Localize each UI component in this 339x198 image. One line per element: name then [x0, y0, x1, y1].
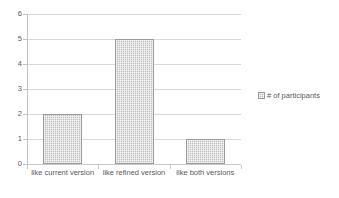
y-axis-tick-label: 6: [6, 10, 22, 18]
y-axis-tick-labels: 0123456: [0, 0, 22, 198]
y-axis-tick-mark: [23, 89, 27, 90]
x-axis-tick-mark: [241, 165, 242, 169]
bar-chart: 0123456 like current versionlike refined…: [0, 0, 339, 198]
y-axis-tick-label: 5: [6, 35, 22, 43]
plot-area: [27, 14, 241, 164]
gridline: [27, 14, 241, 15]
x-axis-category-labels: like current versionlike refined version…: [27, 168, 241, 198]
x-axis-line: [27, 164, 241, 165]
x-axis-category-label: like both versions: [170, 168, 241, 178]
y-axis-tick-mark: [23, 39, 27, 40]
bar: [186, 139, 225, 164]
y-axis-tick-mark: [23, 64, 27, 65]
bar: [43, 114, 82, 164]
bar: [115, 39, 154, 164]
x-axis-category-label: like current version: [27, 168, 98, 178]
y-axis-tick-label: 1: [6, 135, 22, 143]
y-axis-tick-label: 3: [6, 85, 22, 93]
y-axis-tick-mark: [23, 139, 27, 140]
y-axis-tick-mark: [23, 114, 27, 115]
y-axis-tick-mark: [23, 14, 27, 15]
x-axis-category-label: like refined version: [98, 168, 169, 178]
y-axis-tick-label: 0: [6, 160, 22, 168]
legend-entry-label: # of participants: [267, 92, 320, 100]
chart-legend: # of participants: [258, 92, 320, 100]
y-axis-tick-label: 4: [6, 60, 22, 68]
y-axis-tick-label: 2: [6, 110, 22, 118]
legend-swatch-icon: [258, 92, 265, 99]
y-axis-line: [27, 14, 28, 165]
